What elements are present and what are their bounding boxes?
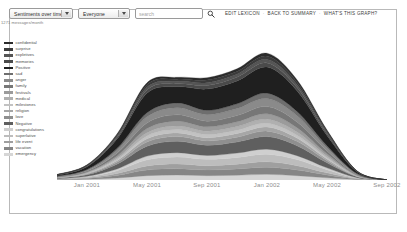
whats-this-graph-link[interactable]: WHAT'S THIS GRAPH?: [324, 11, 377, 16]
legend-item-label: milestones: [16, 102, 36, 108]
stream-chart: [57, 28, 387, 180]
chevron-down-icon: [118, 10, 128, 17]
legend-item-label: medical: [16, 96, 30, 102]
x-axis-tick: Jan 2002: [254, 182, 280, 188]
legend-swatch-icon: [4, 79, 13, 82]
x-axis: Jan 2001May 2001Sep 2001Jan 2002May 2002…: [57, 182, 387, 196]
legend-swatch-icon: [4, 104, 13, 107]
x-axis-tick: Sep 2001: [193, 182, 220, 188]
legend-item-label: surprise: [16, 46, 31, 52]
back-to-summary-link[interactable]: BACK TO SUMMARY: [268, 11, 316, 16]
legend: confidentialsurpriseexpletivesmemoriesPo…: [4, 40, 56, 158]
legend-swatch-icon: [4, 91, 13, 94]
legend-swatch-icon: [4, 97, 13, 100]
legend-swatch-icon: [4, 110, 13, 113]
toolbar-links: EDIT LEXICON · BACK TO SUMMARY · WHAT'S …: [225, 11, 377, 16]
legend-swatch-icon: [4, 153, 13, 156]
messages-per-month-caption: 1271 messages/month: [1, 20, 43, 25]
legend-item-label: superlative: [16, 133, 36, 139]
search-input[interactable]: [135, 8, 203, 19]
legend-swatch-icon: [4, 116, 13, 119]
legend-swatch-icon: [4, 67, 13, 70]
legend-swatch-icon: [4, 85, 13, 88]
legend-item-label: Negative: [16, 121, 33, 127]
legend-item-label: life event: [16, 139, 33, 145]
legend-item-label: emergency: [16, 151, 37, 157]
legend-item[interactable]: emergency: [4, 151, 56, 157]
legend-swatch-icon: [4, 147, 13, 150]
legend-swatch-icon: [4, 128, 13, 131]
view-select-value: Sentiments over time: [14, 11, 63, 17]
search-icon[interactable]: [207, 10, 215, 18]
legend-item-label: memories: [16, 59, 34, 65]
link-separator: ·: [319, 11, 321, 16]
legend-item-label: family: [16, 83, 27, 89]
legend-swatch-icon: [4, 73, 13, 76]
legend-item-label: sad: [16, 71, 23, 77]
legend-swatch-icon: [4, 141, 13, 144]
x-axis-tick: Sep 2002: [373, 182, 400, 188]
legend-item-label: festivals: [16, 90, 31, 96]
toolbar: Sentiments over time Everyone EDIT LEXIC…: [9, 7, 377, 20]
legend-swatch-icon: [4, 135, 13, 138]
legend-item-label: love: [16, 114, 24, 120]
legend-item-label: congratulations: [16, 127, 45, 133]
edit-lexicon-link[interactable]: EDIT LEXICON: [225, 11, 260, 16]
legend-item-label: confidential: [16, 40, 37, 46]
chevron-down-icon: [61, 10, 71, 17]
search-area: [135, 8, 215, 19]
people-select[interactable]: Everyone: [78, 8, 130, 19]
people-select-value: Everyone: [83, 11, 105, 17]
legend-swatch-icon: [4, 42, 13, 45]
view-select[interactable]: Sentiments over time: [9, 8, 73, 19]
legend-item-label: religion: [16, 108, 30, 114]
x-axis-tick: May 2002: [313, 182, 341, 188]
link-separator: ·: [263, 11, 265, 16]
legend-swatch-icon: [4, 122, 13, 125]
legend-item-label: Positive: [16, 65, 31, 71]
legend-swatch-icon: [4, 60, 13, 63]
legend-item-label: expletives: [16, 52, 35, 58]
app-root: Sentiments over time Everyone EDIT LEXIC…: [0, 0, 407, 232]
x-axis-tick: May 2001: [133, 182, 161, 188]
legend-item-label: vacation: [16, 145, 32, 151]
legend-item-label: anger: [16, 77, 27, 83]
x-axis-tick: Jan 2001: [74, 182, 100, 188]
legend-swatch-icon: [4, 48, 13, 51]
stacked-area-plot: [57, 28, 387, 180]
legend-swatch-icon: [4, 54, 13, 57]
